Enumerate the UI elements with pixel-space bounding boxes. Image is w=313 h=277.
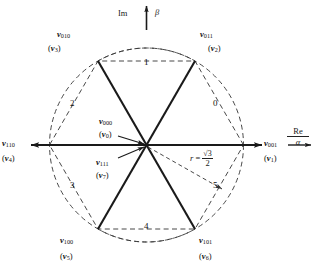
sector-label-0: 0: [213, 98, 218, 108]
label-v001-alt-sub: 1: [271, 156, 274, 163]
alpha-text: α: [287, 137, 309, 147]
sector-label-2: 2: [70, 98, 75, 108]
label-v100-name: v100: [60, 235, 73, 245]
label-v000-name: v000: [99, 116, 112, 126]
sector-label-1: 1: [144, 57, 149, 67]
label-v110-alt-sub: 4: [9, 156, 12, 163]
label-v011-alt: (v2): [208, 44, 221, 54]
sector-label-4: 4: [144, 221, 149, 231]
label-v010-alt-sub: 3: [55, 46, 58, 53]
label-v111-alt-sub: 7: [103, 173, 106, 180]
label-v100: v100: [60, 236, 73, 246]
radius-annotation: r = √3 2: [190, 150, 213, 168]
im-text: Im: [118, 8, 127, 18]
label-v011-alt-sub: 2: [215, 46, 218, 53]
sector-label-5: 5: [213, 180, 218, 190]
label-v000-alt-sub: 0: [106, 132, 109, 139]
label-v101-name: v101: [199, 235, 212, 245]
re-text: Re: [287, 126, 309, 137]
label-v000-alt: (v0): [99, 130, 112, 140]
label-v110-name: v110: [2, 138, 15, 148]
vector-v101: [147, 145, 196, 229]
real-axis-label: Re α: [287, 126, 309, 147]
radius-symbol: r: [190, 153, 193, 163]
label-v010-name: v010: [57, 29, 70, 39]
imaginary-axis-label: Im: [118, 8, 127, 18]
label-v101-alt-sub: 6: [206, 254, 209, 261]
beta-text: β: [155, 7, 159, 17]
figure-canvas: Im β Re α v010 (v3) v011 (v2) v001 (v1) …: [0, 0, 313, 277]
label-v110: v110: [2, 139, 15, 149]
sector-label-3: 3: [70, 180, 75, 190]
label-v001-alt: (v1): [264, 154, 277, 164]
label-v010-alt: (v3): [48, 44, 61, 54]
label-v101: v101: [199, 236, 212, 246]
label-v011-name: v011: [200, 29, 213, 39]
label-v101-alt: (v6): [199, 252, 212, 262]
label-v111: v111: [96, 158, 109, 168]
radius-denominator: 2: [202, 159, 212, 168]
zero-vector-v000-pointer: [118, 136, 144, 144]
beta-symbol-label: β: [155, 7, 159, 17]
label-v111-alt: (v7): [96, 171, 109, 181]
vector-v011: [147, 61, 196, 145]
label-v100-alt: (v5): [60, 252, 73, 262]
label-v011: v011: [200, 30, 213, 40]
label-v111-name: v111: [96, 157, 109, 167]
label-v001-name: v001: [264, 138, 277, 148]
label-v001: v001: [264, 139, 277, 149]
radius-fraction: √3 2: [202, 150, 212, 168]
radius-equals: =: [195, 153, 200, 163]
label-v000: v000: [99, 117, 112, 127]
label-v010: v010: [57, 30, 70, 40]
label-v110-alt: (v4): [2, 154, 15, 164]
label-v100-alt-sub: 5: [67, 254, 70, 261]
